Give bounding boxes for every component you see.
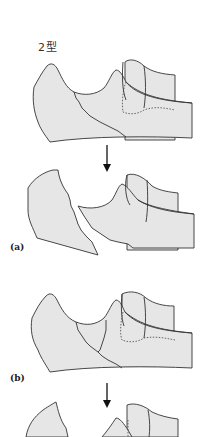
- panel-b-intact: [31, 292, 192, 372]
- mandible-fracture-diagram: [0, 0, 206, 437]
- arrow-down-icon: [103, 145, 111, 172]
- panel-b-displaced: [26, 402, 178, 437]
- panel-a-displaced: [28, 170, 194, 255]
- panel-a-intact: [33, 60, 192, 142]
- arrow-down-icon: [103, 383, 111, 408]
